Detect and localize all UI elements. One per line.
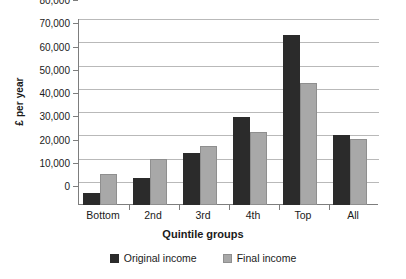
legend-swatch-icon: [110, 254, 119, 263]
x-axis-category-label: Bottom: [86, 209, 119, 221]
bar-group: [79, 19, 129, 205]
x-axis-category-label: 2nd: [144, 209, 162, 221]
bar-group: [229, 19, 279, 205]
y-axis-tick-label: 60,000: [39, 41, 70, 52]
x-axis-tick-mark: [279, 205, 280, 210]
x-axis-tick-mark: [129, 205, 130, 210]
bar: [283, 35, 300, 205]
chart-legend: Original incomeFinal income: [0, 252, 406, 264]
bar-group: [179, 19, 229, 205]
bar: [83, 193, 100, 205]
bar: [200, 146, 217, 205]
y-axis-tick-label: 70,000: [39, 18, 70, 29]
x-axis-category-label: Top: [295, 209, 312, 221]
y-axis-tick-label: 40,000: [39, 88, 70, 99]
x-axis-category-label: 4th: [246, 209, 261, 221]
x-axis-category-label: 3rd: [195, 209, 210, 221]
y-axis-tick-label: 30,000: [39, 111, 70, 122]
bar: [333, 135, 350, 205]
bar: [183, 153, 200, 205]
legend-label: Original income: [124, 252, 197, 264]
y-axis-tick-label: 10,000: [39, 157, 70, 168]
x-axis-tick-mark: [229, 205, 230, 210]
y-axis-tick-mark: [73, 0, 78, 1]
legend-item: Original income: [110, 252, 197, 264]
bar-group: [129, 19, 179, 205]
y-axis-tick-label: 50,000: [39, 64, 70, 75]
y-axis-tick-label: 0: [64, 181, 70, 192]
plot-area: [78, 19, 378, 205]
bar: [133, 178, 150, 205]
bar: [300, 83, 317, 205]
x-axis-title: Quintile groups: [0, 228, 406, 240]
y-axis-tick-label: 80,000: [39, 0, 70, 6]
x-axis-tick-mark: [179, 205, 180, 210]
y-axis-ticks: 010,00020,00030,00040,00050,00060,00070,…: [0, 0, 78, 186]
bar: [350, 139, 367, 205]
bar: [233, 117, 250, 205]
bar-group: [329, 19, 379, 205]
bar: [150, 159, 167, 205]
bar-chart: £ per year 010,00020,00030,00040,00050,0…: [0, 0, 406, 279]
legend-item: Final income: [223, 252, 297, 264]
bar: [250, 132, 267, 205]
x-axis-category-label: All: [347, 209, 359, 221]
bar-groups: [79, 19, 379, 205]
x-axis-tick-mark: [329, 205, 330, 210]
legend-label: Final income: [237, 252, 297, 264]
bar: [100, 174, 117, 205]
bar-group: [279, 19, 329, 205]
y-axis-tick-label: 20,000: [39, 134, 70, 145]
legend-swatch-icon: [223, 254, 232, 263]
